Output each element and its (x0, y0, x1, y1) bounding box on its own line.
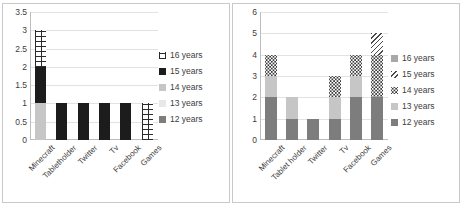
legend-swatch-icon (391, 55, 398, 62)
bar-slot (281, 12, 302, 140)
stacked-bar[interactable] (99, 103, 110, 140)
bar-segment (56, 103, 67, 140)
right-plot-area (260, 12, 388, 140)
legend-item[interactable]: 15 years (159, 67, 203, 76)
bar-slot (260, 12, 281, 140)
y-tick-label: 5 (252, 29, 257, 38)
bar-slot (51, 12, 72, 140)
y-tick-label: 2.5 (15, 45, 27, 54)
stacked-bar[interactable] (350, 55, 362, 140)
left-plot-area (30, 12, 158, 140)
stacked-bar[interactable] (286, 97, 298, 140)
right-chart: 0123456 MinecraftTablet holderTwitterTvF… (233, 4, 459, 202)
bar-segment (329, 119, 341, 140)
bar-segment (329, 97, 341, 118)
legend-label: 13 years (170, 99, 203, 108)
legend-swatch-icon (159, 116, 166, 123)
bar-segment (286, 119, 298, 140)
legend-swatch-icon (159, 100, 166, 107)
legend-item[interactable]: 14 years (159, 83, 203, 92)
legend-item[interactable]: 12 years (391, 118, 435, 127)
bar-segment (329, 76, 341, 97)
legend-item[interactable]: 15 years (391, 70, 435, 79)
bar-slot (303, 12, 324, 140)
legend-swatch-icon (391, 119, 398, 126)
bar-slot (367, 12, 388, 140)
bar-segment (371, 97, 383, 140)
x-tick-label: Tv (339, 144, 351, 156)
legend-label: 15 years (170, 67, 203, 76)
bar-segment (120, 103, 131, 140)
y-tick-label: 4 (252, 51, 257, 60)
left-chart: 00.511.522.533.5 MinecraftTabletholderTw… (3, 4, 229, 202)
legend-label: 15 years (402, 70, 435, 79)
left-y-axis-labels: 00.511.522.533.5 (3, 4, 29, 202)
bar-segment (350, 55, 362, 76)
stacked-bar[interactable] (56, 103, 67, 140)
bar-segment (265, 76, 277, 97)
bar-segment (286, 97, 298, 118)
bar-segment (35, 30, 46, 67)
legend-item[interactable]: 16 years (391, 54, 435, 63)
legend-label: 16 years (402, 54, 435, 63)
legend-item[interactable]: 12 years (159, 115, 203, 124)
right-bars (260, 12, 388, 140)
stacked-bar[interactable] (120, 103, 131, 140)
y-tick-label: 2 (252, 93, 257, 102)
left-chart-panel: 00.511.522.533.5 MinecraftTabletholderTw… (2, 3, 230, 203)
bar-segment (350, 97, 362, 140)
bar-slot (324, 12, 345, 140)
x-tick-label: Twitter (77, 144, 99, 166)
bar-segment (99, 103, 110, 140)
x-tick-label: Games (370, 144, 394, 168)
legend-item[interactable]: 13 years (159, 99, 203, 108)
stacked-bar[interactable] (142, 103, 153, 140)
y-tick-label: 0 (22, 136, 27, 145)
bar-segment (350, 76, 362, 97)
y-tick-label: 2 (22, 63, 27, 72)
legend-label: 16 years (170, 51, 203, 60)
legend-label: 14 years (170, 83, 203, 92)
legend-label: 14 years (402, 86, 435, 95)
stacked-bar[interactable] (329, 76, 341, 140)
right-chart-panel: 0123456 MinecraftTablet holderTwitterTvF… (232, 3, 460, 203)
bar-segment (78, 103, 89, 140)
bar-slot (115, 12, 136, 140)
legend-swatch-icon (159, 68, 166, 75)
y-tick-label: 3.5 (15, 8, 27, 17)
y-tick-label: 3 (22, 26, 27, 35)
x-tick-label: Tv (109, 144, 121, 156)
bar-slot (345, 12, 366, 140)
bar-segment (265, 55, 277, 76)
legend-swatch-icon (159, 52, 166, 59)
legend-swatch-icon (391, 87, 398, 94)
left-legend: 16 years15 years14 years13 years12 years (159, 51, 203, 131)
y-tick-label: 0.5 (15, 118, 27, 127)
legend-label: 12 years (402, 118, 435, 127)
stacked-bar[interactable] (265, 55, 277, 140)
legend-swatch-icon (391, 103, 398, 110)
right-y-axis-labels: 0123456 (233, 4, 259, 202)
y-tick-label: 0 (252, 136, 257, 145)
stacked-bar[interactable] (35, 30, 46, 140)
bar-segment (307, 119, 319, 140)
bar-segment (35, 103, 46, 140)
bar-segment (371, 33, 383, 54)
stacked-bar[interactable] (307, 119, 319, 140)
y-tick-label: 1.5 (15, 81, 27, 90)
x-tick-label: Twitter (307, 144, 329, 166)
stacked-bar[interactable] (78, 103, 89, 140)
legend-item[interactable]: 14 years (391, 86, 435, 95)
bar-slot (30, 12, 51, 140)
stacked-bar[interactable] (371, 33, 383, 140)
legend-item[interactable]: 16 years (159, 51, 203, 60)
legend-item[interactable]: 13 years (391, 102, 435, 111)
left-bars (30, 12, 158, 140)
legend-swatch-icon (159, 84, 166, 91)
bar-segment (265, 97, 277, 140)
x-tick-label: Games (140, 144, 164, 168)
legend-label: 13 years (402, 102, 435, 111)
y-tick-label: 1 (252, 115, 257, 124)
right-legend: 16 years15 years14 years13 years12 years (391, 54, 435, 134)
figure-two-charts: 00.511.522.533.5 MinecraftTabletholderTw… (0, 0, 465, 205)
